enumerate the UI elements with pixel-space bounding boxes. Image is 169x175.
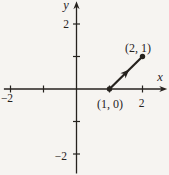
- x-axis-label: x: [156, 70, 163, 84]
- y-tick-label--2: −2: [55, 150, 67, 162]
- x-tick-label-2: 2: [139, 97, 145, 109]
- vector-diagram: −222−2xy(1, 0)(2, 1): [0, 0, 169, 175]
- point-label-2-1: (2, 1): [125, 41, 151, 55]
- point-dot-1-0: [107, 86, 112, 91]
- point-label-1-0: (1, 0): [97, 97, 123, 111]
- y-tick-label-2: 2: [63, 18, 69, 30]
- coordinate-plane: −222−2xy(1, 0)(2, 1): [0, 0, 169, 175]
- y-axis-label: y: [61, 0, 69, 12]
- x-tick-label--2: −2: [1, 92, 13, 104]
